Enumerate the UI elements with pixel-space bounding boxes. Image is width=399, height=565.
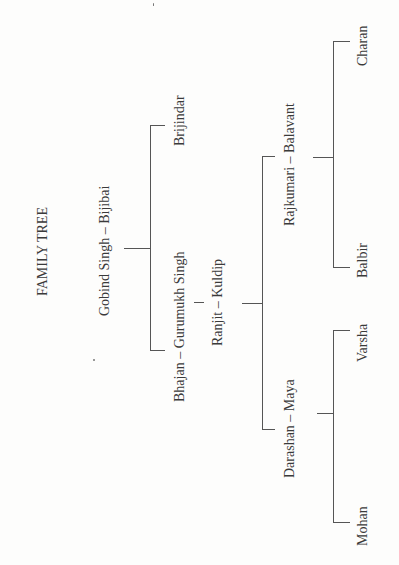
connector-gen4b-stem — [317, 413, 334, 414]
diagram-title: FAMILY TREE — [35, 207, 51, 296]
node-rajkumari-balavant: Rajkumari – Balavant — [282, 103, 298, 226]
scan-speck — [93, 359, 95, 361]
connector-gen3-branch — [262, 156, 263, 430]
connector-to-darashan — [262, 429, 275, 430]
scan-speck — [153, 3, 154, 6]
connector-gen4b-branch — [333, 330, 334, 523]
connector-to-rajkumari — [262, 156, 275, 157]
connector-gen1-stem — [124, 248, 151, 249]
connector-to-mohan — [333, 522, 350, 523]
node-mohan: Mohan — [355, 506, 371, 546]
node-gobind-bijibai: Gobind Singh – Bijibai — [97, 186, 113, 316]
connector-to-brijindar — [150, 125, 165, 126]
node-charan: Charan — [355, 26, 371, 66]
connector-to-charan — [333, 41, 350, 42]
connector-gen3-stem — [242, 303, 263, 304]
node-bhajan-gurumukh: Bhajan – Gurumukh Singh — [172, 252, 188, 403]
connector-gen4a-stem — [313, 157, 334, 158]
connector-to-bhajan — [150, 350, 165, 351]
connector-gen4a-branch — [333, 41, 334, 268]
node-brijindar: Brijindar — [172, 95, 188, 146]
connector-to-balbir — [333, 267, 350, 268]
node-varsha: Varsha — [355, 324, 371, 362]
node-ranjit-kuldip: Ranjit – Kuldip — [210, 259, 226, 346]
connector-bhajan-to-ranjit — [194, 302, 204, 303]
node-balbir: Balbir — [355, 243, 371, 278]
connector-to-varsha — [333, 330, 350, 331]
node-darashan-maya: Darashan – Maya — [282, 379, 298, 478]
connector-gen1-branch — [150, 125, 151, 351]
